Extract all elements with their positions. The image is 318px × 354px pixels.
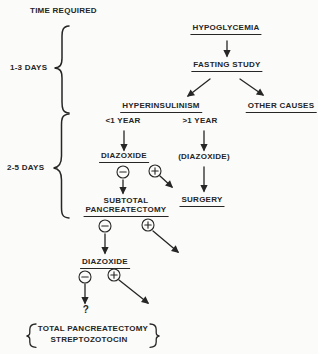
plus-circle-icon: [142, 219, 154, 231]
minus-circle-icon: [79, 271, 91, 283]
arrow-fasting-to-other-causes: [240, 79, 263, 95]
brace-1-3-days: [55, 26, 70, 113]
node-fasting-study: FASTING STUDY: [191, 60, 262, 72]
brace-2-5-days: [54, 114, 70, 218]
node-under-one-year: <1 YEAR: [105, 116, 140, 125]
timeline-phase-1-3-days: 1-3 DAYS: [10, 63, 47, 72]
flowchart: TIME REQUIRED 1-3 DAYS 2-5 DAYS HYPOGLYC…: [0, 0, 318, 354]
arrow-retrial-plus-out: [119, 280, 148, 303]
node-streptozotocin: STREPTOZOTOCIN: [51, 335, 128, 344]
node-diazoxide-trial: DIAZOXIDE: [99, 151, 149, 163]
minus-circle-icon: [117, 166, 129, 178]
node-question-mark: ?: [83, 305, 89, 314]
node-diazoxide-optional: (DIAZOXIDE): [178, 152, 230, 161]
final-close-brace: [150, 324, 160, 347]
flowchart-graphics: [0, 0, 318, 354]
node-total-pancreatectomy: TOTAL PANCREATECTOMY: [38, 324, 148, 333]
plus-circle-icon: [108, 269, 120, 281]
timeline-header: TIME REQUIRED: [30, 6, 97, 15]
final-open-brace: [27, 324, 37, 347]
node-hyperinsulinism: HYPERINSULINISM: [120, 101, 202, 113]
timeline-phase-2-5-days: 2-5 DAYS: [7, 163, 44, 172]
node-over-one-year: >1 YEAR: [182, 116, 217, 125]
node-hypoglycemia: HYPOGLYCEMIA: [190, 23, 261, 35]
node-surgery: SURGERY: [179, 195, 224, 207]
node-subtotal-pancreatectomy-line1: SUBTOTAL: [104, 196, 149, 205]
arrow-diazoxide-plus-to-surgery: [160, 176, 172, 187]
node-diazoxide-retrial: DIAZOXIDE: [80, 257, 130, 269]
arrow-fasting-to-hyperinsulinism: [188, 79, 210, 96]
arrow-subtotal-plus-out: [153, 231, 178, 252]
plus-circle-icon: [149, 165, 161, 177]
node-subtotal-pancreatectomy-line2: PANCREATECTOMY: [84, 205, 169, 217]
minus-circle-icon: [99, 220, 111, 232]
node-other-causes: OTHER CAUSES: [246, 101, 317, 113]
